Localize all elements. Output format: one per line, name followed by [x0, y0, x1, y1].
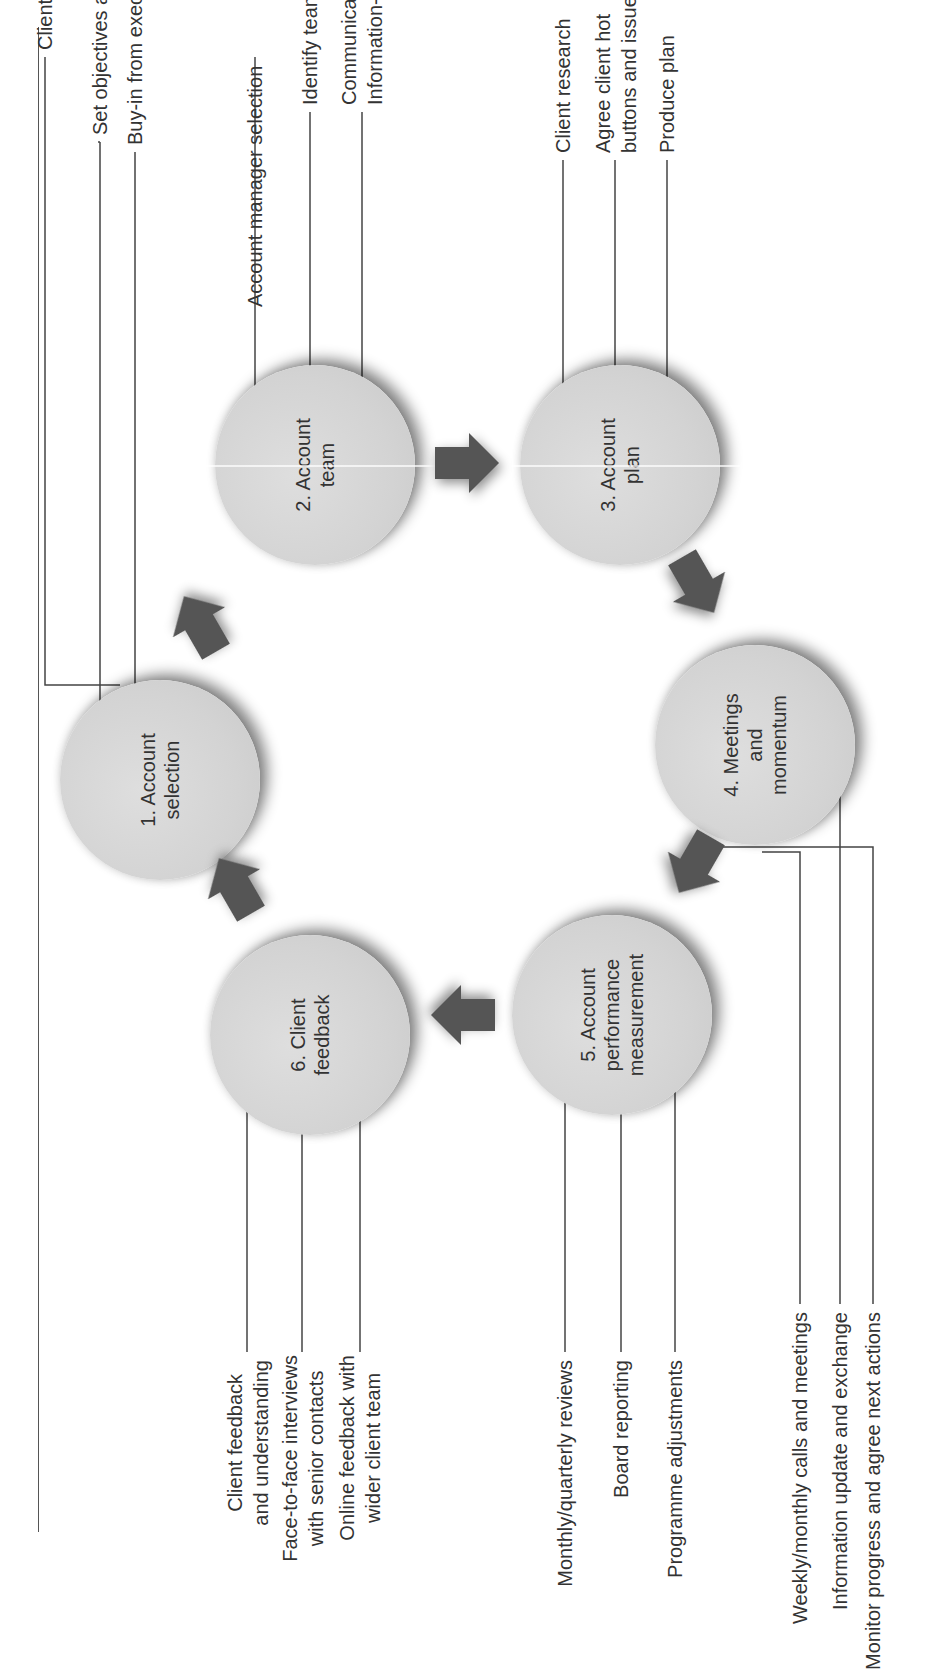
- arrow-right-icon: [435, 433, 499, 493]
- activity-note: Agree client hot buttons and issues: [590, 0, 642, 153]
- activity-note: Set objectives and KPIs: [88, 0, 112, 135]
- activity-note: Client selection: [33, 0, 57, 50]
- activity-note: Buy-in from executive: [123, 0, 147, 145]
- step-circle-5: 5. Account performance measurement: [512, 915, 712, 1115]
- activity-note: Face-to-face interviews with senior cont…: [277, 1355, 329, 1562]
- activity-note: Communication and Information-sharing: [336, 0, 388, 105]
- activity-note: Online feedback with wider client team: [334, 1355, 386, 1541]
- step-circle-1: 1. Account selection: [60, 680, 260, 880]
- arrow-right-icon: [158, 581, 242, 666]
- activity-note: Identify team: [298, 0, 322, 105]
- activity-note: Monitor progress and agree next actions: [861, 1312, 885, 1670]
- activity-note: Client feedback and understanding: [222, 1360, 274, 1526]
- step-circle-4: 4. Meetings and momentum: [655, 645, 855, 845]
- activity-note: Produce plan: [655, 35, 679, 153]
- step-circle-6: 6. Client feedback: [210, 935, 410, 1135]
- arrow-right-icon: [431, 985, 495, 1045]
- step-label-5: 5. Account performance measurement: [576, 954, 648, 1076]
- activity-note: Information update and exchange: [828, 1312, 852, 1610]
- step-label-6: 6. Client feedback: [286, 994, 334, 1075]
- arrow-right-icon: [656, 542, 740, 627]
- step-label-1: 1. Account selection: [136, 733, 184, 826]
- activity-note: Client research: [551, 18, 575, 153]
- activity-note: Board reporting: [609, 1360, 633, 1498]
- activity-note: Monthly/quarterly reviews: [553, 1360, 577, 1587]
- activity-note: Weekly/monthly calls and meetings: [788, 1312, 812, 1624]
- step-label-4: 4. Meetings and momentum: [719, 693, 791, 796]
- activity-note: Account manager selection: [243, 66, 267, 307]
- page-top-rule: [38, 27, 39, 1532]
- activity-note: Programme adjustments: [663, 1360, 687, 1578]
